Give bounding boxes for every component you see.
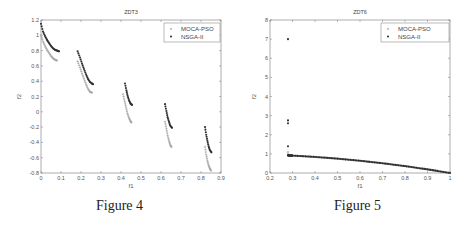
- x-tick-label: 0.6: [157, 175, 165, 181]
- x-tick-label: 0.5: [137, 175, 145, 181]
- plot-area: [270, 20, 450, 173]
- y-tick-label: 1: [36, 32, 39, 38]
- x-tick-label: 0.7: [379, 175, 387, 181]
- y-tick-label: 7: [265, 36, 268, 42]
- chart-title: ZDT3: [124, 9, 138, 15]
- y-tick-label: 0.8: [31, 48, 39, 54]
- zdt3-chart: ZDT300.10.20.30.40.50.60.70.80.9-0.8-0.6…: [0, 0, 234, 195]
- x-tick-label: 0.4: [117, 175, 125, 181]
- y-tick-label: 4: [265, 94, 268, 100]
- figure-4: ZDT300.10.20.30.40.50.60.70.80.9-0.8-0.6…: [0, 0, 234, 225]
- chart-title: ZDT6: [353, 9, 367, 15]
- series-nsga-ii: [287, 38, 451, 174]
- x-tick-label: 0.1: [57, 175, 65, 181]
- y-tick-label: 0.6: [31, 63, 39, 69]
- legend: MOCA-PSONSGA-II: [381, 23, 449, 42]
- x-tick-label: 0.6: [356, 175, 364, 181]
- y-tick-label: 0: [36, 109, 39, 115]
- y-tick-label: 6: [265, 55, 268, 61]
- y-tick-label: 8: [265, 17, 268, 23]
- figure-5: ZDT60.20.30.40.50.60.70.80.91012345678f1…: [234, 0, 468, 225]
- figure-4-caption: Figure 4: [96, 198, 143, 214]
- y-tick-label: -0.8: [30, 170, 39, 176]
- legend-entry: NSGA-II: [398, 34, 421, 40]
- legend: MOCA-PSONSGA-II: [164, 23, 220, 42]
- legend-entry: NSGA-II: [181, 34, 204, 40]
- x-axis-label: f1: [357, 183, 363, 189]
- y-tick-label: 1.2: [31, 17, 39, 23]
- figure-5-caption: Figure 5: [334, 198, 381, 214]
- x-tick-label: 0.9: [217, 175, 225, 181]
- x-tick-label: 1: [448, 175, 451, 181]
- y-tick-label: -0.2: [30, 124, 39, 130]
- y-tick-label: -0.6: [30, 155, 39, 161]
- x-tick-label: 0.5: [334, 175, 342, 181]
- y-tick-label: -0.4: [30, 139, 39, 145]
- y-axis-label: f2: [16, 93, 22, 99]
- series-nsga-ii: [40, 23, 213, 154]
- zdt6-chart: ZDT60.20.30.40.50.60.70.80.91012345678f1…: [234, 0, 469, 195]
- x-tick-label: 0.4: [311, 175, 319, 181]
- x-tick-label: 0: [39, 175, 42, 181]
- y-tick-label: 3: [265, 113, 268, 119]
- plot-area: [41, 20, 221, 173]
- y-tick-label: 5: [265, 74, 268, 80]
- legend-entry: MOCA-PSO: [398, 26, 431, 32]
- x-tick-label: 0.8: [401, 175, 409, 181]
- x-tick-label: 0.2: [77, 175, 85, 181]
- x-tick-label: 0.9: [424, 175, 432, 181]
- x-tick-label: 0.8: [197, 175, 205, 181]
- y-tick-label: 2: [265, 132, 268, 138]
- legend-entry: MOCA-PSO: [181, 26, 214, 32]
- x-tick-label: 0.7: [177, 175, 185, 181]
- y-axis-label: f2: [251, 93, 257, 99]
- series-moca-pso: [40, 34, 212, 172]
- x-axis-label: f1: [128, 183, 134, 189]
- y-tick-label: 0.4: [31, 78, 39, 84]
- x-tick-label: 0.3: [97, 175, 105, 181]
- y-tick-label: 0: [265, 170, 268, 176]
- x-tick-label: 0.3: [289, 175, 297, 181]
- y-tick-label: 1: [265, 151, 268, 157]
- y-tick-label: 0.2: [31, 94, 39, 100]
